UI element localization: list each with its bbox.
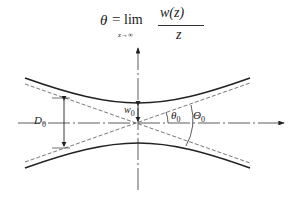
gaussian-beam-diagram bbox=[0, 0, 294, 197]
label-w0: w0 bbox=[124, 104, 135, 118]
beam-lower-envelope bbox=[25, 143, 250, 168]
beam-upper-envelope bbox=[25, 78, 250, 103]
label-theta0: θ0 bbox=[171, 109, 180, 124]
theta0-arc bbox=[166, 112, 168, 123]
asymptote-1 bbox=[25, 84, 250, 163]
label-D0: D0 bbox=[34, 114, 46, 129]
asymptote-2 bbox=[25, 83, 250, 162]
label-Theta0: Θ0 bbox=[193, 109, 205, 124]
Theta0-arc bbox=[186, 105, 193, 146]
